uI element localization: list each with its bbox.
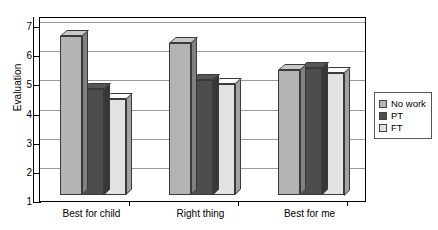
y-axis-tick-label: 4 [20, 110, 32, 120]
legend-swatch-no-work [379, 100, 387, 108]
legend-swatch-pt [379, 112, 387, 120]
bar [169, 43, 191, 195]
y-axis-tick-mark [34, 27, 40, 28]
y-axis-tick-mark [34, 85, 40, 86]
x-axis-label: Best for child [63, 208, 121, 219]
bar-front-face [278, 70, 300, 195]
bar-side-face [191, 37, 197, 195]
y-axis-tick-mark [34, 173, 40, 174]
bar-side-face [300, 64, 306, 195]
legend-item: FT [379, 122, 426, 133]
bar [278, 70, 300, 195]
x-axis-tick-mark [238, 202, 239, 206]
chart-figure: Evaluation 1234567 Best for childRight t… [0, 0, 438, 230]
gridline [40, 51, 365, 52]
y-axis-tick-mark [34, 202, 40, 203]
y-axis-tick-label: 5 [20, 80, 32, 90]
legend-label-ft: FT [391, 122, 403, 133]
legend-label-pt: PT [391, 110, 403, 121]
legend: No work PT FT [374, 92, 432, 139]
y-axis-tick-mark [34, 144, 40, 145]
y-axis-tick-mark [34, 56, 40, 57]
bar-side-face [82, 30, 88, 195]
y-axis-tick-label: 3 [20, 139, 32, 149]
gridline [40, 22, 365, 23]
bar-front-face [169, 43, 191, 195]
bar-side-face [104, 83, 110, 195]
y-axis-tick-label: 1 [20, 197, 32, 207]
legend-label-no-work: No work [391, 98, 426, 109]
y-axis-tick-label: 2 [20, 168, 32, 178]
y-axis-tick-mark [34, 115, 40, 116]
bar-side-face [213, 74, 219, 195]
x-axis-tick-mark [129, 202, 130, 206]
x-axis-tick-mark [347, 202, 348, 206]
legend-item: No work [379, 98, 426, 109]
bar-side-face [322, 62, 328, 195]
plot-area [39, 17, 366, 202]
bar-front-face [60, 36, 82, 195]
legend-item: PT [379, 110, 426, 121]
y-axis-tick-label: 6 [20, 51, 32, 61]
legend-swatch-ft [379, 124, 387, 132]
bar-side-face [235, 78, 241, 195]
x-axis-label: Right thing [177, 208, 225, 219]
bar-side-face [126, 93, 132, 195]
bar [60, 36, 82, 195]
bar-side-face [344, 67, 350, 196]
y-axis-tick-label: 7 [20, 22, 32, 32]
x-axis-label: Best for me [284, 208, 335, 219]
